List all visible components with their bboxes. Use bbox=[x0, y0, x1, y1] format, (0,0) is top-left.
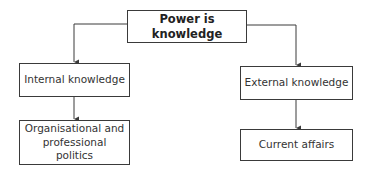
current-affairs-label: Current affairs bbox=[259, 138, 335, 152]
current-affairs-node: Current affairs bbox=[240, 129, 353, 161]
internal-knowledge-node: Internal knowledge bbox=[19, 63, 130, 97]
organisational-politics-label: Organisational and professional politics bbox=[24, 122, 125, 163]
root-node-label: Power is knowledge bbox=[128, 12, 246, 42]
root-node: Power is knowledge bbox=[127, 10, 247, 43]
internal-knowledge-label: Internal knowledge bbox=[24, 73, 125, 87]
arrow-root-to-external bbox=[246, 25, 296, 65]
arrow-root-to-internal bbox=[74, 24, 127, 62]
external-knowledge-label: External knowledge bbox=[245, 76, 349, 90]
external-knowledge-node: External knowledge bbox=[240, 66, 353, 100]
organisational-politics-node: Organisational and professional politics bbox=[19, 120, 130, 165]
